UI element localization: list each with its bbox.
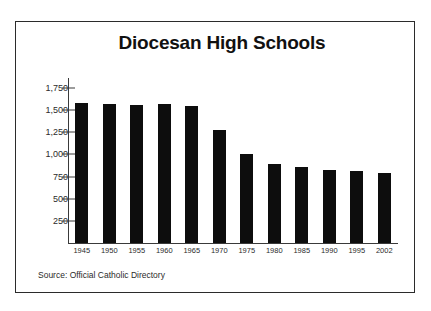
bar-column — [234, 22, 260, 243]
x-tick-label: 1970 — [206, 246, 232, 255]
chart-frame: Diocesan High Schools 1,7501,5001,2501,0… — [15, 21, 415, 293]
x-tick-label: 1950 — [96, 246, 122, 255]
bar — [323, 170, 336, 243]
x-tick-label: 1985 — [289, 246, 315, 255]
y-tick-mark — [62, 176, 75, 177]
y-tick-mark — [62, 154, 75, 155]
bar-column — [206, 22, 232, 243]
x-axis-line — [68, 243, 398, 244]
bar-column — [124, 22, 150, 243]
bar-column — [261, 22, 287, 243]
bar — [213, 130, 226, 243]
bar — [378, 173, 391, 243]
x-tick-label: 1995 — [344, 246, 370, 255]
bar-column — [344, 22, 370, 243]
bar-column — [179, 22, 205, 243]
bar — [103, 104, 116, 243]
bar — [158, 104, 171, 243]
bar — [268, 164, 281, 243]
source-note: Source: Official Catholic Directory — [38, 270, 165, 280]
x-tick-label: 1990 — [316, 246, 342, 255]
x-tick-label: 1980 — [261, 246, 287, 255]
x-axis-labels: 1945195019551960196519701975198019851990… — [68, 246, 398, 255]
x-tick-label: 2002 — [371, 246, 397, 255]
bar — [240, 154, 253, 243]
bar — [350, 171, 363, 243]
bar — [185, 106, 198, 243]
bar-column — [96, 22, 122, 243]
y-tick-mark — [62, 132, 75, 133]
bar-column — [316, 22, 342, 243]
x-tick-label: 1975 — [234, 246, 260, 255]
x-tick-label: 1960 — [151, 246, 177, 255]
bar-column — [371, 22, 397, 243]
x-tick-label: 1945 — [69, 246, 95, 255]
y-tick-mark — [62, 110, 75, 111]
plot-area: 1,7501,5001,2501,000750500250 1945195019… — [16, 22, 414, 292]
y-tick-mark — [62, 220, 75, 221]
bar-series — [68, 22, 398, 243]
bar — [75, 103, 88, 243]
y-tick-mark — [62, 198, 75, 199]
bar — [130, 105, 143, 243]
y-axis-labels: 1,7501,5001,2501,000750500250 — [16, 22, 68, 292]
bar-column — [289, 22, 315, 243]
x-tick-label: 1965 — [179, 246, 205, 255]
bar — [295, 167, 308, 243]
y-tick-mark — [62, 88, 75, 89]
x-tick-label: 1955 — [124, 246, 150, 255]
clipped-top-text — [6, 0, 146, 6]
bar-column — [151, 22, 177, 243]
